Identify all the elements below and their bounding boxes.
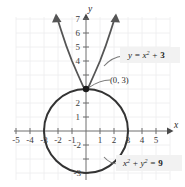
circle-eq-equals: = xyxy=(148,158,159,168)
tick-label-y-7: 7 xyxy=(76,14,81,24)
tick-label-x-1: 1 xyxy=(98,135,103,145)
intersection-point-marker xyxy=(83,86,89,92)
tick-label-y-6: 6 xyxy=(76,28,81,38)
circle-eq-plus-y: + y xyxy=(130,158,145,168)
y-axis-label: y xyxy=(87,4,93,14)
tick-label-y-4: 4 xyxy=(76,56,81,66)
graph-figure: -5 -4 -3 -2 -1 1 2 3 4 5 7 6 5 4 2 1 -2 … xyxy=(0,0,185,187)
circle-equation-annotation: x2 + y2 = 9 xyxy=(116,155,182,171)
parabola-eq-lhs: y = x xyxy=(127,50,147,60)
x-axis xyxy=(14,128,174,135)
tick-label-y-1: 1 xyxy=(76,112,81,122)
tick-label-x-4: 4 xyxy=(140,135,145,145)
tick-label-x-5: 5 xyxy=(154,135,159,145)
tick-label-y-2: 2 xyxy=(76,98,81,108)
tick-label-y-5: 5 xyxy=(76,42,81,52)
coordinate-plane-svg: -5 -4 -3 -2 -1 1 2 3 4 5 7 6 5 4 2 1 -2 … xyxy=(0,0,185,187)
circle-eq-constant: 9 xyxy=(158,158,163,168)
x-axis-label: x xyxy=(173,120,179,130)
tick-label-y-neg2: -2 xyxy=(74,140,82,150)
parabola-eq-constant: 3 xyxy=(160,50,165,60)
tick-label-x-neg2: -2 xyxy=(54,135,62,145)
tick-label-x-neg5: -5 xyxy=(12,135,20,145)
tick-label-x-3: 3 xyxy=(126,135,131,145)
y-axis-tick-labels: 7 6 5 4 2 1 -2 -3 xyxy=(74,14,82,178)
tick-label-x-2: 2 xyxy=(112,135,117,145)
tick-label-x-neg3: -3 xyxy=(40,135,48,145)
parabola-eq-plus: + xyxy=(150,50,161,60)
tick-label-y-neg3: -3 xyxy=(74,168,82,178)
y-axis xyxy=(83,14,90,181)
tick-label-x-neg4: -4 xyxy=(26,135,34,145)
parabola-equation-annotation: y = x2 + 3 xyxy=(120,47,180,63)
intersection-point-label: (0, 3) xyxy=(110,75,129,85)
parabola-equation-text: y = x2 + 3 xyxy=(127,50,165,60)
